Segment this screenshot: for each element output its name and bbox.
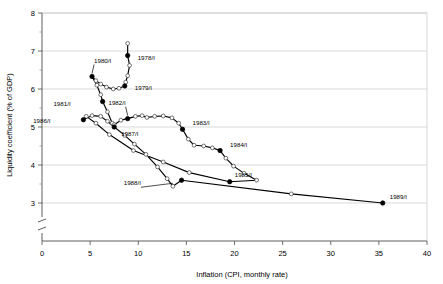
data-marker-filled <box>90 74 94 78</box>
y-tick-label-3: 3 <box>31 199 35 208</box>
data-marker-open <box>107 133 111 137</box>
data-marker-open <box>153 114 157 118</box>
data-marker-open <box>165 177 169 181</box>
data-marker-open <box>171 184 175 188</box>
chart-container: 3456780510152025303540 1978/I1979/I1980/… <box>0 0 443 284</box>
data-marker-filled <box>125 53 129 57</box>
data-marker-open <box>111 87 115 91</box>
tick-marks <box>38 13 427 245</box>
data-marker-open <box>117 86 121 90</box>
data-marker-filled <box>125 116 129 120</box>
y-tick-label-4: 4 <box>31 161 35 170</box>
data-marker-open <box>94 79 98 83</box>
data-marker-filled <box>180 127 184 131</box>
x-tick-label-40: 40 <box>423 249 431 258</box>
data-marker-open <box>161 160 165 164</box>
label-leader-line <box>92 64 94 73</box>
data-marker-open <box>99 114 103 118</box>
point-label: 1988/I <box>124 179 141 186</box>
data-marker-open <box>224 156 228 160</box>
data-marker-filled <box>227 180 231 184</box>
point-label: 1986/I <box>33 117 50 124</box>
x-tick-label-20: 20 <box>230 249 238 258</box>
y-tick-label-6: 6 <box>31 85 35 94</box>
data-marker-open <box>192 143 196 147</box>
data-marker-open <box>105 85 109 89</box>
data-marker-open <box>106 119 110 123</box>
x-tick-label-0: 0 <box>40 249 44 258</box>
data-marker-open <box>106 110 110 114</box>
data-marker-open <box>133 142 137 146</box>
data-marker-filled <box>218 148 222 152</box>
data-marker-open <box>289 192 293 196</box>
data-marker-open <box>126 42 130 46</box>
point-label: 1981/I <box>53 100 70 107</box>
data-marker-open <box>126 74 130 78</box>
data-marker-open <box>128 64 132 68</box>
data-marker-open <box>170 116 174 120</box>
axis-break-icon <box>38 219 46 230</box>
x-axis-title: Inflation (CPI, monthly rate) <box>196 270 288 279</box>
x-tick-label-25: 25 <box>278 249 286 258</box>
data-marker-open <box>119 118 123 122</box>
data-marker-open <box>90 114 94 118</box>
data-marker-open <box>187 171 191 175</box>
point-label: 1979/I <box>135 84 152 91</box>
data-marker-open <box>94 121 98 125</box>
point-label: 1978/I <box>138 54 155 61</box>
data-marker-open <box>144 152 148 156</box>
y-axis-title: Liquidity coefficient (% of GDP) <box>5 73 14 177</box>
data-marker-open <box>145 116 149 120</box>
point-label: 1982/I <box>108 99 125 106</box>
data-marker-open <box>95 83 99 87</box>
x-tick-label-5: 5 <box>88 249 92 258</box>
y-tick-label-8: 8 <box>31 9 35 18</box>
data-marker-open <box>255 178 259 182</box>
scatter-line-chart: 3456780510152025303540 1978/I1979/I1980/… <box>0 0 443 284</box>
x-tick-label-15: 15 <box>182 249 190 258</box>
x-axis-line <box>42 233 427 241</box>
point-label: 1985/I <box>235 171 252 178</box>
data-marker-open <box>99 82 103 86</box>
data-marker-open <box>161 114 165 118</box>
data-marker-open <box>232 164 236 168</box>
data-marker-filled <box>81 118 85 122</box>
point-label: 1987/I <box>121 130 138 137</box>
data-marker-open <box>99 93 103 97</box>
data-marker-open <box>177 121 181 125</box>
data-marker-filled <box>179 178 183 182</box>
data-marker-filled <box>123 84 127 88</box>
label-leader-line <box>126 107 128 116</box>
data-marker-open <box>84 114 88 118</box>
data-marker-filled <box>100 99 104 103</box>
data-marker-open <box>156 165 160 169</box>
data-marker-open <box>140 114 144 118</box>
data-marker-open <box>202 144 206 148</box>
x-tick-label-10: 10 <box>134 249 142 258</box>
y-tick-label-7: 7 <box>31 47 35 56</box>
x-tick-label-35: 35 <box>375 249 383 258</box>
tick-labels: 3456780510152025303540 <box>31 9 431 258</box>
point-label: 1983/I <box>193 119 210 126</box>
point-label: 1980/I <box>94 57 111 64</box>
data-marker-filled <box>381 201 385 205</box>
data-marker-open <box>133 114 137 118</box>
data-marker-open <box>210 146 214 150</box>
x-tick-label-30: 30 <box>327 249 335 258</box>
y-tick-label-5: 5 <box>31 123 35 132</box>
point-label: 1984/I <box>230 141 247 148</box>
data-marker-open <box>186 137 190 141</box>
point-label: 1989/I <box>390 193 407 200</box>
data-marker-filled <box>112 125 116 129</box>
data-marker-open <box>132 149 136 153</box>
label-leader-line <box>141 183 173 187</box>
